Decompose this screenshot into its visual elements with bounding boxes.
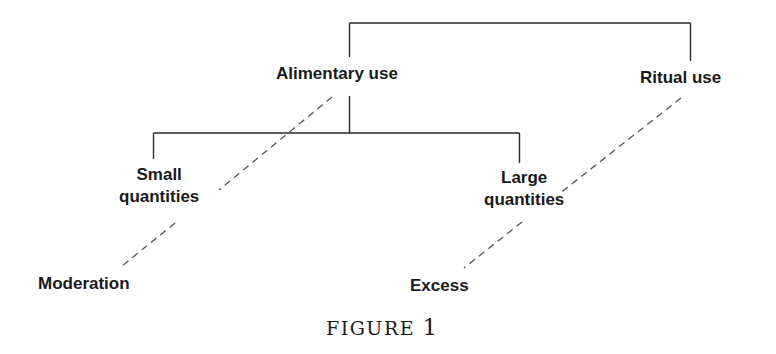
- node-large-quantities: Large quantities: [484, 167, 564, 211]
- figure-diagram: Alimentary use Ritual use Small quantiti…: [0, 0, 776, 354]
- diagram-lines: [0, 0, 776, 354]
- node-excess: Excess: [410, 275, 469, 297]
- node-small-quantities-line1: Small: [119, 164, 199, 186]
- node-ritual-use: Ritual use: [640, 67, 721, 89]
- node-large-quantities-line1: Large: [484, 167, 564, 189]
- node-moderation: Moderation: [38, 273, 130, 295]
- figure-caption-word: FIGURE: [326, 317, 415, 339]
- figure-caption: FIGURE 1: [326, 314, 439, 340]
- node-small-quantities: Small quantities: [119, 164, 199, 208]
- node-alimentary-use: Alimentary use: [276, 63, 398, 85]
- node-small-quantities-line2: quantities: [119, 186, 199, 208]
- top-bracket: [350, 23, 691, 61]
- node-large-quantities-line2: quantities: [484, 189, 564, 211]
- figure-caption-number: 1: [423, 314, 439, 340]
- alimentary-branch: [154, 96, 520, 163]
